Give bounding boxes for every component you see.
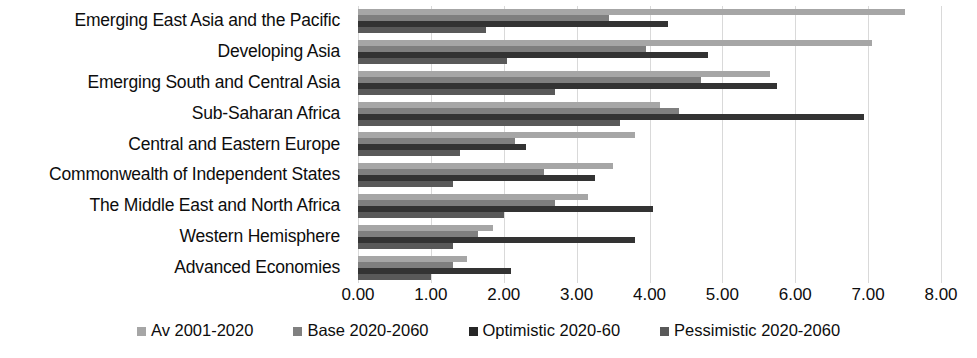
plot-area — [358, 6, 941, 283]
bar-group — [358, 160, 941, 191]
legend-label: Av 2001-2020 — [151, 321, 253, 340]
category-axis-labels: Emerging East Asia and the PacificDevelo… — [0, 6, 350, 283]
x-axis-ticks: 0.001.002.003.004.005.006.007.008.00 — [358, 283, 941, 309]
legend-label: Pessimistic 2020-2060 — [674, 321, 840, 340]
category-label: Developing Asia — [218, 43, 341, 61]
bar — [358, 27, 486, 33]
x-tick-label: 3.00 — [560, 285, 593, 305]
x-tick-label: 6.00 — [779, 285, 812, 305]
bar — [358, 243, 453, 249]
bar — [358, 212, 504, 218]
legend-swatch-icon — [137, 327, 146, 336]
category-label: Sub-Saharan Africa — [192, 105, 340, 123]
chart-legend: Av 2001-2020Base 2020-2060Optimistic 202… — [0, 316, 977, 344]
x-tick-label: 7.00 — [852, 285, 885, 305]
legend-label: Base 2020-2060 — [307, 321, 428, 340]
legend-item[interactable]: Optimistic 2020-60 — [469, 321, 621, 340]
legend-swatch-icon — [660, 327, 669, 336]
category-label: Western Hemisphere — [180, 228, 340, 246]
category-label: Commonwealth of Independent States — [49, 166, 340, 184]
bar-group — [358, 68, 941, 99]
category-label: Emerging South and Central Asia — [87, 74, 340, 92]
category-label: Central and Eastern Europe — [128, 136, 340, 154]
gridline-8.00 — [941, 6, 942, 283]
bar-group — [358, 252, 941, 283]
bar-chart: Emerging East Asia and the PacificDevelo… — [0, 0, 977, 358]
bar — [358, 274, 431, 280]
bar — [358, 58, 507, 64]
legend-item[interactable]: Pessimistic 2020-2060 — [660, 321, 840, 340]
category-label: Advanced Economies — [174, 259, 340, 277]
bar — [358, 150, 460, 156]
bar-group — [358, 191, 941, 222]
x-tick-label: 1.00 — [414, 285, 447, 305]
category-label: The Middle East and North Africa — [90, 197, 340, 215]
bar — [358, 89, 555, 95]
bar-group — [358, 6, 941, 37]
bar-group — [358, 129, 941, 160]
x-tick-label: 2.00 — [487, 285, 520, 305]
bar-group — [358, 37, 941, 68]
x-tick-label: 0.00 — [341, 285, 374, 305]
bar-group — [358, 221, 941, 252]
legend-label: Optimistic 2020-60 — [483, 321, 621, 340]
bar — [358, 181, 453, 187]
legend-item[interactable]: Base 2020-2060 — [293, 321, 428, 340]
legend-swatch-icon — [293, 327, 302, 336]
bar-group — [358, 98, 941, 129]
category-label: Emerging East Asia and the Pacific — [74, 12, 340, 30]
x-tick-label: 8.00 — [924, 285, 957, 305]
x-tick-label: 4.00 — [633, 285, 666, 305]
legend-item[interactable]: Av 2001-2020 — [137, 321, 253, 340]
legend-swatch-icon — [469, 327, 478, 336]
bar — [358, 120, 620, 126]
x-tick-label: 5.00 — [706, 285, 739, 305]
